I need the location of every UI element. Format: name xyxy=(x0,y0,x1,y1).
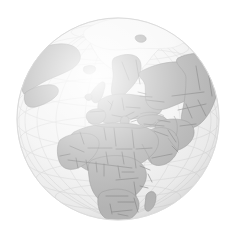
sphere-shading xyxy=(17,18,219,220)
globe-map xyxy=(0,0,235,234)
globe-figure: Orthographic projection of Earth centred… xyxy=(0,0,235,234)
